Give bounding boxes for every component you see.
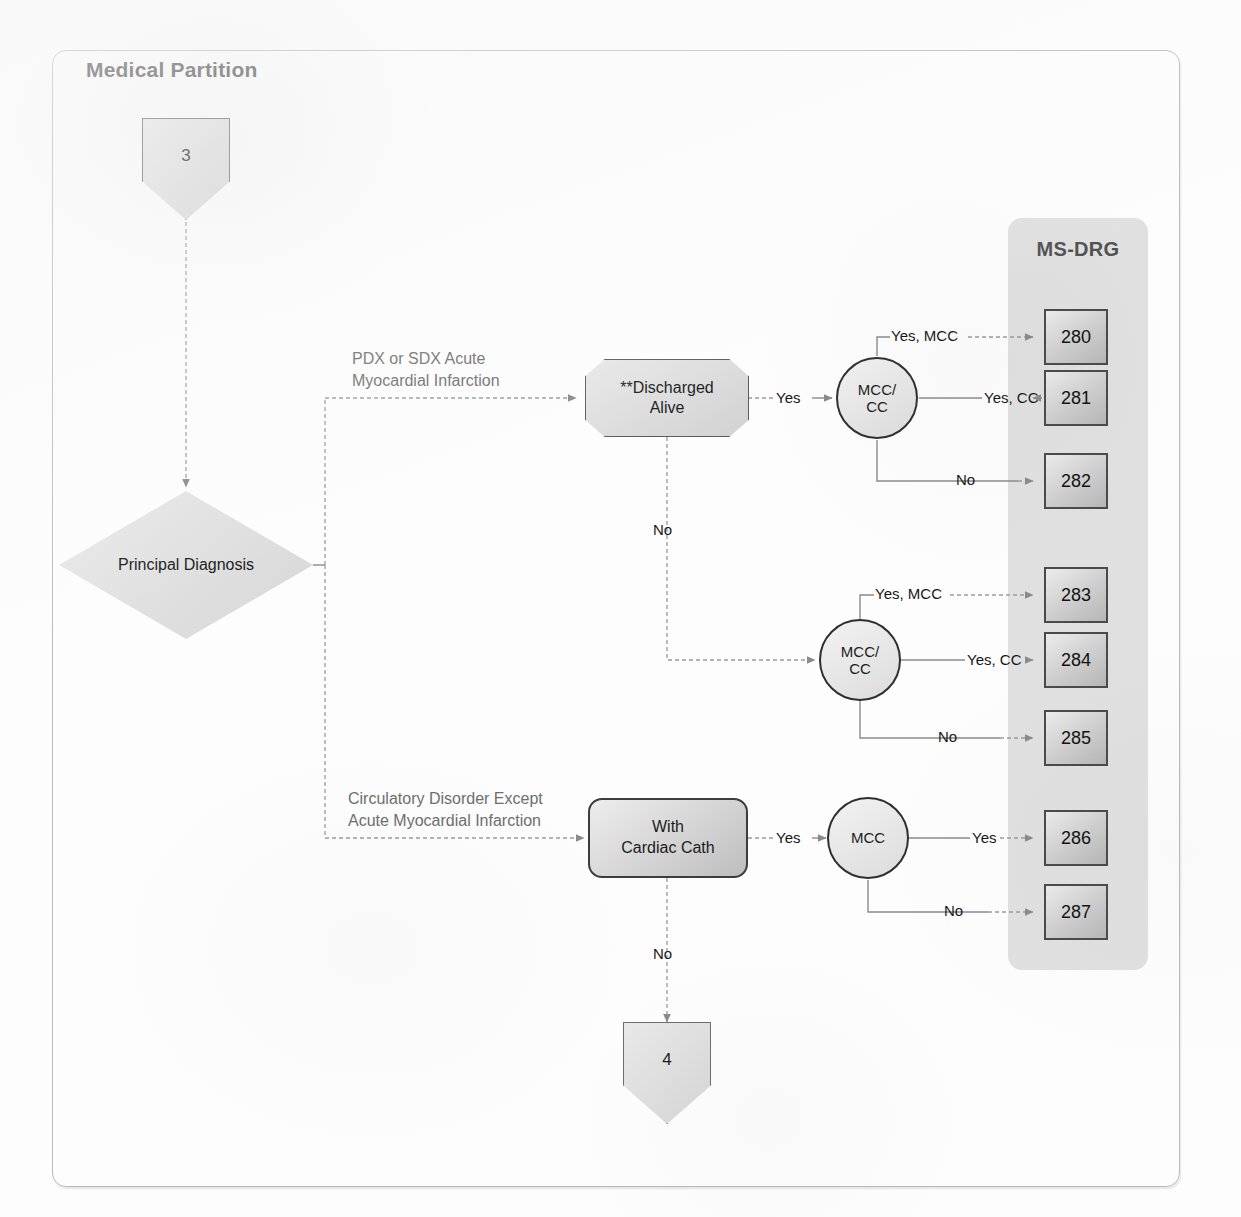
cardiac-cath-line1: With <box>652 817 684 838</box>
branch-label-circ-line2: Acute Myocardial Infarction <box>348 810 543 832</box>
discharged-alive-line1: **Discharged <box>620 378 713 398</box>
with-cardiac-cath-node[interactable]: With Cardiac Cath <box>588 798 748 878</box>
principal-diagnosis-node[interactable]: Principal Diagnosis <box>59 491 313 639</box>
branch-label-ami: PDX or SDX Acute Myocardial Infarction <box>352 348 500 391</box>
principal-diagnosis-label: Principal Diagnosis <box>59 491 313 639</box>
mcc-cc-1-line2: CC <box>866 398 888 415</box>
page-title: Medical Partition <box>86 58 257 82</box>
edge-label-cath-no: No <box>653 945 672 962</box>
branch-label-ami-line2: Myocardial Infarction <box>352 370 500 392</box>
mcc-cc-decision-1[interactable]: MCC/ CC <box>836 357 918 439</box>
edge-label-g2-yes-cc: Yes, CC <box>967 651 1021 668</box>
cardiac-cath-line2: Cardiac Cath <box>621 838 714 859</box>
drg-box-281[interactable]: 281 <box>1044 370 1108 426</box>
drg-box-286[interactable]: 286 <box>1044 810 1108 866</box>
mcc-cc-decision-2[interactable]: MCC/ CC <box>819 619 901 701</box>
drg-box-287[interactable]: 287 <box>1044 884 1108 940</box>
edge-label-mcc-no: No <box>944 902 963 919</box>
edge-label-g1-yes-mcc: Yes, MCC <box>891 327 958 344</box>
drg-box-284[interactable]: 284 <box>1044 632 1108 688</box>
branch-label-circ-line1: Circulatory Disorder Except <box>348 788 543 810</box>
discharged-alive-line2: Alive <box>650 398 685 418</box>
msdrg-column-header: MS-DRG <box>1008 238 1148 261</box>
edge-label-g1-no: No <box>956 471 975 488</box>
mcc-label: MCC <box>851 829 885 846</box>
branch-label-circulatory: Circulatory Disorder Except Acute Myocar… <box>348 788 543 831</box>
edge-label-g2-no: No <box>938 728 957 745</box>
mcc-decision[interactable]: MCC <box>827 797 909 879</box>
mcc-cc-1-line1: MCC/ <box>858 381 896 398</box>
edge-label-g1-yes-cc: Yes, CC <box>984 389 1038 406</box>
edge-label-discharged-yes: Yes <box>776 389 800 406</box>
drg-box-285[interactable]: 285 <box>1044 710 1108 766</box>
flowchart-canvas: MS-DRG Medical Partition <box>0 0 1241 1217</box>
drg-box-282[interactable]: 282 <box>1044 453 1108 509</box>
mcc-cc-2-line2: CC <box>849 660 871 677</box>
edge-label-g2-yes-mcc: Yes, MCC <box>875 585 942 602</box>
branch-label-ami-line1: PDX or SDX Acute <box>352 348 500 370</box>
edge-label-cath-yes: Yes <box>776 829 800 846</box>
edge-label-mcc-yes: Yes <box>972 829 996 846</box>
drg-box-280[interactable]: 280 <box>1044 309 1108 365</box>
mcc-cc-2-line1: MCC/ <box>841 643 879 660</box>
discharged-alive-node[interactable]: **Discharged Alive <box>585 359 749 437</box>
drg-box-283[interactable]: 283 <box>1044 567 1108 623</box>
edge-label-discharged-no: No <box>653 521 672 538</box>
